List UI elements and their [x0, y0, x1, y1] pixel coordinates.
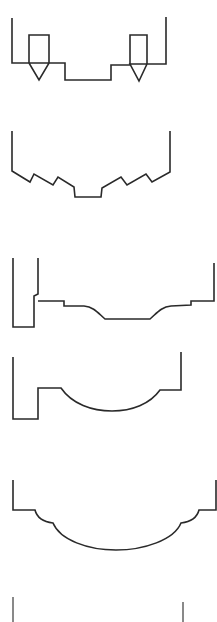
profile-double-v-groove	[12, 17, 166, 81]
profiles-svg	[0, 0, 217, 622]
profile-rebate-arc	[13, 352, 181, 419]
profile-ogee-arc	[13, 480, 216, 550]
profile-zigzag	[12, 131, 170, 197]
profile-drawing-sheet	[0, 0, 217, 622]
profile-stepped-cove	[13, 258, 214, 327]
profile-edge-lines	[13, 597, 183, 622]
